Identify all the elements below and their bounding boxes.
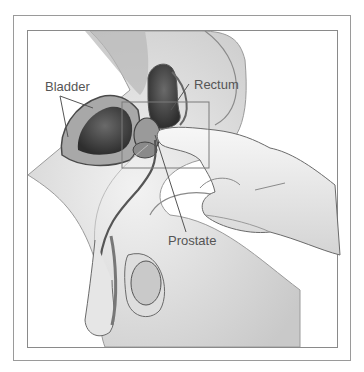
testis xyxy=(131,261,161,305)
pubic-fold xyxy=(85,31,148,95)
rectum-label: Rectum xyxy=(194,78,239,91)
anatomy-illustration xyxy=(0,0,364,372)
bladder-label: Bladder xyxy=(45,80,90,93)
prostate-label: Prostate xyxy=(168,234,216,247)
rectum xyxy=(148,64,180,128)
